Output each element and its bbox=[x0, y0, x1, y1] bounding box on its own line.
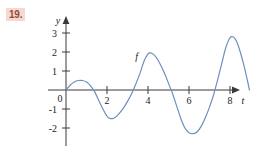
x-tick-label-2: 2 bbox=[105, 95, 110, 106]
function-curve bbox=[66, 36, 249, 133]
graph-figure: 3 2 1 -1 -2 0 2 4 6 8 y t f bbox=[0, 0, 261, 165]
x-axis-label: t bbox=[242, 95, 245, 106]
y-tick-label-3: 3 bbox=[52, 28, 57, 39]
y-tick-label-1: 1 bbox=[52, 66, 57, 77]
y-axis-arrow-icon bbox=[63, 16, 70, 24]
curve-label-f: f bbox=[135, 51, 139, 62]
x-tick-label-4: 4 bbox=[146, 95, 151, 106]
y-tick-label-neg1: -1 bbox=[49, 104, 57, 115]
x-tick-label-6: 6 bbox=[187, 95, 192, 106]
origin-label: 0 bbox=[58, 93, 63, 104]
y-axis-label: y bbox=[55, 15, 61, 26]
y-tick-label-2: 2 bbox=[52, 47, 57, 58]
y-axis bbox=[63, 16, 70, 146]
x-axis-arrow-icon bbox=[232, 87, 240, 94]
y-tick-label-neg2: -2 bbox=[49, 123, 57, 134]
figure-container: 19. 3 2 1 -1 -2 bbox=[0, 0, 261, 165]
x-axis bbox=[48, 87, 240, 94]
x-tick-label-8: 8 bbox=[228, 95, 233, 106]
